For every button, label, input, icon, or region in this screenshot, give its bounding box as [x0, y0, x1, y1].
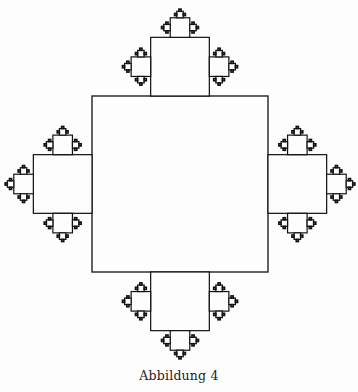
fractal-square-level-2	[288, 213, 308, 233]
fractal-square-level-4	[340, 196, 342, 198]
fractal-square-level-2	[209, 57, 229, 77]
fractal-square-level-4	[314, 222, 316, 224]
fractal-square-level-3	[229, 298, 236, 305]
fractal-square-level-4	[18, 170, 20, 172]
fractal-square-level-4	[214, 313, 216, 315]
fractal-square-level-4	[314, 144, 316, 146]
figure-caption: Abbildung 4	[0, 368, 358, 383]
fractal-square-level-4	[166, 31, 168, 33]
fractal-square-level-4	[335, 200, 337, 202]
fractal-square-level-4	[231, 61, 233, 63]
fractal-square-level-1	[33, 155, 92, 214]
fractal-square-level-4	[5, 183, 7, 185]
fractal-square-level-4	[331, 196, 333, 198]
fractal-square-level-4	[283, 148, 285, 150]
fractal-square-level-1	[151, 272, 210, 331]
fractal-square-level-4	[222, 53, 224, 55]
fractal-square-level-4	[301, 235, 303, 237]
fractal-square-level-4	[218, 318, 220, 320]
fractal-square-level-3	[72, 142, 79, 149]
fractal-square-level-4	[218, 48, 220, 50]
fractal-square-level-4	[62, 126, 64, 128]
fractal-square-level-3	[216, 76, 223, 83]
fractal-square-level-3	[138, 311, 145, 318]
fractal-square-level-4	[192, 22, 194, 24]
fractal-square-level-4	[231, 70, 233, 72]
fractal-square-level-4	[62, 239, 64, 241]
fractal-square-level-4	[222, 287, 224, 289]
fractal-square-level-4	[135, 53, 137, 55]
fractal-square-level-3	[229, 63, 236, 70]
fractal-square-level-4	[348, 187, 350, 189]
fractal-square-level-4	[127, 296, 129, 298]
fractal-square-level-4	[162, 339, 164, 341]
fractal-square-level-2	[14, 174, 34, 194]
fractal-square-level-1	[151, 37, 210, 96]
fractal-square-level-4	[235, 300, 237, 302]
fractal-square-level-4	[218, 283, 220, 285]
fractal-square-level-4	[9, 187, 11, 189]
fractal-square-level-4	[279, 222, 281, 224]
fractal-square-level-3	[138, 76, 145, 83]
fractal-square-level-4	[75, 148, 77, 150]
fractal-square-level-3	[333, 194, 340, 201]
fractal-square-level-4	[222, 79, 224, 81]
fractal-square-level-4	[9, 179, 11, 181]
fractal-square-level-4	[135, 287, 137, 289]
fractal-square-level-3	[190, 337, 197, 344]
fractal-square-level-4	[183, 352, 185, 354]
fractal-square-level-4	[49, 139, 51, 141]
fractal-square-level-3	[333, 168, 340, 175]
fractal-square-level-4	[196, 339, 198, 341]
fractal-square-level-4	[296, 126, 298, 128]
fractal-square-level-4	[22, 166, 24, 168]
fractal-square-level-4	[192, 31, 194, 33]
fractal-square-level-2	[170, 331, 190, 351]
fractal-square-level-3	[59, 129, 66, 136]
fractal-square-level-4	[57, 131, 59, 133]
fractal-square-level-4	[49, 226, 51, 228]
fractal-square-level-2	[327, 174, 347, 194]
fractal-square-level-3	[294, 233, 301, 240]
fractal-square-level-2	[131, 292, 151, 312]
fractal-square-level-4	[127, 70, 129, 72]
fractal-square-level-4	[44, 144, 46, 146]
fractal-square-level-4	[335, 166, 337, 168]
fractal-square-level-4	[218, 83, 220, 85]
fractal-square-level-4	[214, 79, 216, 81]
fractal-square-level-2	[131, 57, 151, 77]
fractal-square-level-4	[122, 66, 124, 68]
fractal-square-level-3	[216, 311, 223, 318]
fractal-square-level-3	[138, 50, 145, 57]
fractal-square-level-3	[177, 11, 184, 18]
fractal-square-level-4	[175, 352, 177, 354]
fractal-square-level-4	[309, 218, 311, 220]
fractal-square-level-4	[79, 222, 81, 224]
fractal-square-level-4	[18, 196, 20, 198]
fractal-square-level-4	[166, 22, 168, 24]
fractal-square-level-3	[307, 142, 314, 149]
fractal-square-level-4	[127, 305, 129, 307]
fractal-square-level-4	[57, 235, 59, 237]
fractal-square-level-3	[216, 285, 223, 292]
fractal-square-level-4	[331, 170, 333, 172]
fractal-square-level-3	[307, 220, 314, 227]
fractal-square-level-3	[177, 350, 184, 357]
fractal-square-level-4	[140, 48, 142, 50]
fractal-square-level-4	[192, 344, 194, 346]
fractal-square-level-3	[281, 142, 288, 149]
fractal-square-level-4	[75, 226, 77, 228]
fractal-square-level-4	[175, 13, 177, 15]
fractal-square-level-4	[66, 235, 68, 237]
fractal-square-level-2	[170, 18, 190, 38]
fractal-square-level-4	[140, 318, 142, 320]
fractal-square-level-4	[135, 313, 137, 315]
fractal-square-level-4	[144, 313, 146, 315]
fractal-square-level-4	[292, 235, 294, 237]
fractal-square-level-4	[279, 144, 281, 146]
fractal-square-level-2	[209, 292, 229, 312]
fractal-square-level-3	[125, 298, 132, 305]
fractal-square-level-3	[346, 181, 353, 188]
fractal-square-level-4	[144, 53, 146, 55]
fractal-square-level-3	[125, 63, 132, 70]
